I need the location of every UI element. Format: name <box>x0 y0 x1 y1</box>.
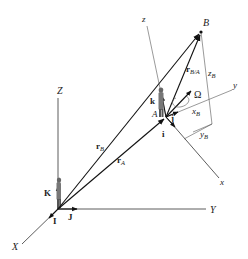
label-k: k <box>150 96 155 106</box>
label-Y: Y <box>210 204 217 215</box>
label-i: i <box>162 129 165 139</box>
label-Z: Z <box>57 85 63 96</box>
rBA-vector <box>166 35 200 117</box>
label-X: X <box>11 241 19 252</box>
rA-vector <box>58 119 164 209</box>
label-y: y <box>232 80 237 90</box>
fixed-frame <box>22 98 206 244</box>
label-B: B <box>203 17 209 28</box>
label-x: x <box>219 177 224 187</box>
label-omega: Ω <box>194 89 201 100</box>
label-rBA: rB/A <box>186 64 200 75</box>
label-K: K <box>44 188 51 198</box>
point-B <box>199 30 202 33</box>
label-A: A <box>151 109 158 119</box>
label-J: J <box>68 212 73 222</box>
label-zB: zB <box>207 68 216 79</box>
label-z: z <box>141 14 146 24</box>
label-j: j <box>170 113 174 123</box>
moving-frame <box>147 26 232 178</box>
rB-vector <box>58 34 199 209</box>
observer-figure-fixed <box>57 178 62 209</box>
zB-line <box>201 32 212 124</box>
label-yB: yB <box>199 129 208 140</box>
relative-motion-diagram: Z Y X K I J z y x k j i A B Ω rB rA rB/A… <box>0 0 248 259</box>
label-xB: xB <box>191 106 200 117</box>
label-rA: rA <box>117 155 125 166</box>
label-rB: rB <box>96 141 104 152</box>
observer-figure-moving <box>159 87 164 117</box>
label-I: I <box>53 216 57 226</box>
position-vectors <box>58 34 200 209</box>
